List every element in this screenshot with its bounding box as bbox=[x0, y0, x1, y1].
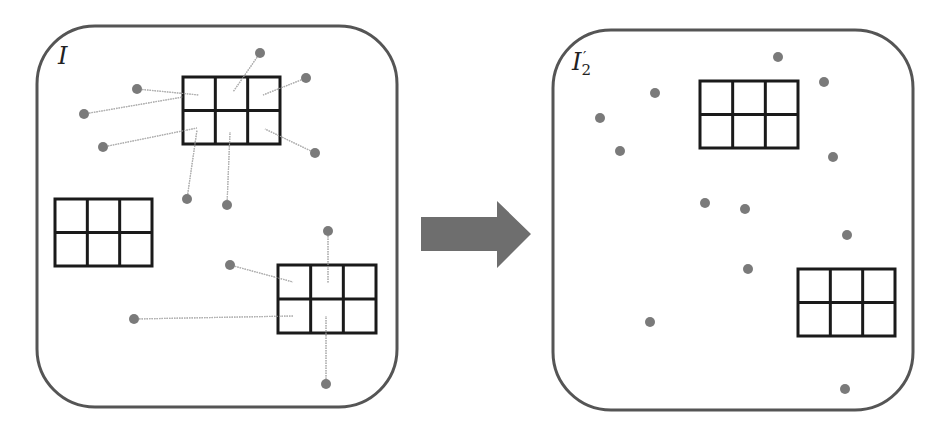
left-panel-border bbox=[37, 26, 397, 407]
left-panel-label: I bbox=[58, 44, 67, 68]
left-panel-point bbox=[132, 84, 142, 94]
transform-arrow-icon bbox=[421, 201, 531, 268]
diagram-canvas bbox=[0, 0, 944, 433]
left-panel-point bbox=[129, 314, 139, 324]
right-panel-point bbox=[840, 384, 850, 394]
right-panel-point bbox=[615, 146, 625, 156]
right-panel-point bbox=[773, 52, 783, 62]
arrow-shape bbox=[421, 201, 531, 268]
left-panel-point bbox=[222, 200, 232, 210]
left-panel-point bbox=[225, 260, 235, 270]
right-panel-point bbox=[842, 230, 852, 240]
right-panel-point bbox=[743, 264, 753, 274]
left-panel-point bbox=[301, 73, 311, 83]
right-panel-point bbox=[645, 317, 655, 327]
left-panel-point bbox=[321, 379, 331, 389]
left-panel bbox=[37, 26, 397, 407]
left-panel-point bbox=[255, 48, 265, 58]
right-panel bbox=[553, 30, 913, 410]
right-panel-label: I2′ bbox=[572, 50, 586, 78]
left-panel-point bbox=[79, 109, 89, 119]
right-panel-point bbox=[650, 88, 660, 98]
left-panel-point bbox=[98, 142, 108, 152]
right-panel-point bbox=[819, 77, 829, 87]
left-panel-point bbox=[310, 148, 320, 158]
right-panel-point bbox=[828, 152, 838, 162]
right-panel-point bbox=[700, 198, 710, 208]
right-panel-point bbox=[595, 113, 605, 123]
left-panel-point bbox=[323, 226, 333, 236]
left-panel-point bbox=[182, 194, 192, 204]
right-panel-point bbox=[740, 204, 750, 214]
left-label-main: I bbox=[58, 42, 67, 70]
right-label-prime: ′ bbox=[583, 48, 586, 66]
